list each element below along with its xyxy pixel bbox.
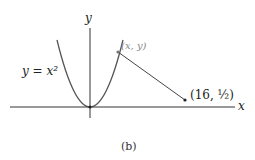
point-general-label: (x, y) <box>121 40 146 51</box>
connecting-segment <box>118 52 185 100</box>
diagram-canvas <box>0 0 255 160</box>
figure-caption: (b) <box>121 140 137 153</box>
curve-label: y = x² <box>22 64 58 78</box>
point-fixed <box>183 98 186 101</box>
point-fixed-label: (16, ½) <box>190 88 234 102</box>
point-general <box>116 50 119 53</box>
y-axis-label: y <box>85 11 92 25</box>
x-axis-label: x <box>238 99 245 113</box>
origin-point <box>89 106 92 109</box>
